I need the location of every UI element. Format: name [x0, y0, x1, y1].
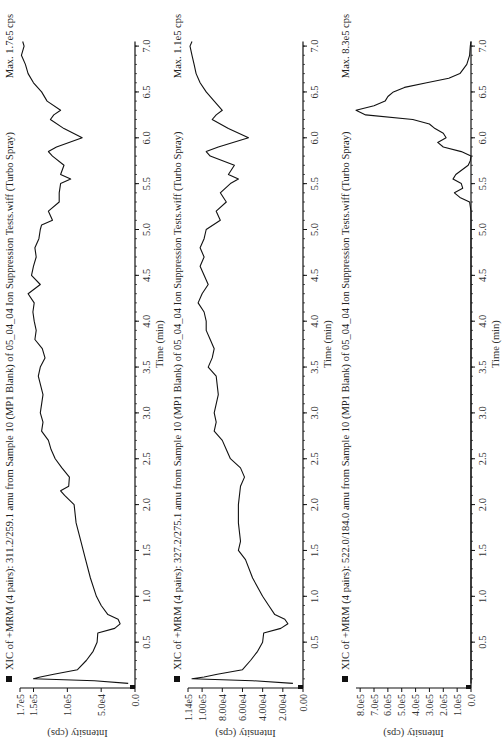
y-tick-label: 1.0e5 — [62, 694, 73, 716]
y-axis-label: Intensity (cps) — [215, 727, 276, 739]
x-tick-label: 7.0 — [477, 40, 488, 53]
y-tick-label: 1.14e5 — [183, 694, 194, 721]
x-tick-label: 5.0 — [309, 223, 320, 236]
chart-plot: 0.51.01.52.02.53.03.54.04.55.05.56.06.57… — [168, 0, 336, 744]
x-tick-label: 2.5 — [309, 452, 320, 465]
x-tick-label: 1.5 — [477, 544, 488, 557]
x-tick-label: 4.0 — [477, 315, 488, 328]
x-tick-label: 0.5 — [141, 636, 152, 649]
origin-marker-icon — [466, 685, 471, 689]
chromatogram-panel-1: XIC of +MRM (4 pairs): 311.2/259.1 amu f… — [0, 0, 168, 744]
x-tick-label: 7.0 — [141, 40, 152, 53]
chromatogram-panel-3: XIC of +MRM (4 pairs): 522.0/184.0 amu f… — [336, 0, 503, 744]
x-tick-label: 3.5 — [309, 360, 320, 373]
x-tick-label: 3.5 — [477, 360, 488, 373]
y-tick-label: 4.00e4 — [257, 694, 268, 721]
x-tick-label: 6.5 — [141, 85, 152, 98]
x-tick-label: 3.5 — [141, 360, 152, 373]
y-axis-label: Intensity (cps) — [47, 727, 108, 739]
y-tick-label: 0.0 — [130, 694, 141, 707]
x-tick-label: 0.5 — [477, 636, 488, 649]
x-tick-label: 4.5 — [309, 269, 320, 282]
x-tick-label: 2.0 — [477, 498, 488, 511]
chromatogram-panel-2: XIC of +MRM (4 pairs): 327.2/275.1 amu f… — [168, 0, 336, 744]
x-tick-label: 3.0 — [309, 406, 320, 419]
x-tick-label: 2.0 — [309, 498, 320, 511]
x-tick-label: 4.5 — [477, 269, 488, 282]
y-tick-label: 1.0e5 — [452, 694, 463, 716]
y-tick-label: 2.0e5 — [438, 694, 449, 716]
x-axis-label: Time (min) — [154, 320, 166, 368]
y-tick-label: 4.0e5 — [410, 694, 421, 716]
x-tick-label: 3.0 — [477, 406, 488, 419]
x-tick-label: 2.5 — [141, 452, 152, 465]
y-tick-label: 6.00e4 — [237, 694, 248, 721]
x-tick-label: 5.5 — [309, 177, 320, 190]
x-tick-label: 6.5 — [309, 85, 320, 98]
x-tick-label: 4.0 — [309, 315, 320, 328]
x-tick-label: 5.5 — [141, 177, 152, 190]
chart-plot: 0.51.01.52.02.53.03.54.04.55.05.56.06.57… — [0, 0, 168, 744]
y-tick-label: 5.0e5 — [396, 694, 407, 716]
y-tick-label: 5.0e4 — [96, 694, 107, 716]
y-tick-label: 2.00e4 — [277, 694, 288, 721]
chart-plot: 0.51.01.52.02.53.03.54.04.55.05.56.06.57… — [336, 0, 503, 744]
rotated-figure: XIC of +MRM (4 pairs): 311.2/259.1 amu f… — [0, 0, 503, 744]
y-tick-label: 8.00e4 — [217, 694, 228, 721]
x-tick-label: 5.0 — [477, 223, 488, 236]
x-tick-label: 7.0 — [309, 40, 320, 53]
y-axis-label: Intensity (cps) — [383, 727, 444, 739]
x-tick-label: 6.0 — [477, 131, 488, 144]
y-tick-label: 1.7e5 — [15, 694, 26, 716]
x-tick-label: 2.0 — [141, 498, 152, 511]
x-tick-label: 5.5 — [477, 177, 488, 190]
x-tick-label: 1.5 — [141, 544, 152, 557]
y-tick-label: 0.0 — [466, 694, 477, 707]
x-tick-label: 4.5 — [141, 269, 152, 282]
y-tick-label: 1.5e5 — [28, 694, 39, 716]
x-tick-label: 2.5 — [477, 452, 488, 465]
x-axis-label: Time (min) — [322, 320, 334, 368]
y-tick-label: 1.00e5 — [197, 694, 208, 721]
data-trace — [21, 42, 128, 684]
x-tick-label: 3.0 — [141, 406, 152, 419]
y-tick-label: 6.0e5 — [382, 694, 393, 716]
x-tick-label: 1.5 — [309, 544, 320, 557]
x-tick-label: 1.0 — [309, 590, 320, 603]
x-tick-label: 4.0 — [141, 315, 152, 328]
y-tick-label: 3.0e5 — [424, 694, 435, 716]
origin-marker-icon — [298, 685, 303, 689]
y-tick-label: 7.0e5 — [369, 694, 380, 716]
y-tick-label: 0.00 — [298, 694, 309, 712]
y-tick-label: 8.0e5 — [355, 694, 366, 716]
data-trace — [356, 42, 471, 684]
x-tick-label: 5.0 — [141, 223, 152, 236]
x-axis-label: Time (min) — [490, 320, 502, 368]
x-tick-label: 0.5 — [309, 636, 320, 649]
x-tick-label: 1.0 — [477, 590, 488, 603]
data-trace — [190, 42, 293, 684]
origin-marker-icon — [130, 685, 135, 689]
x-tick-label: 6.5 — [477, 85, 488, 98]
x-tick-label: 6.0 — [141, 131, 152, 144]
x-tick-label: 6.0 — [309, 131, 320, 144]
x-tick-label: 1.0 — [141, 590, 152, 603]
